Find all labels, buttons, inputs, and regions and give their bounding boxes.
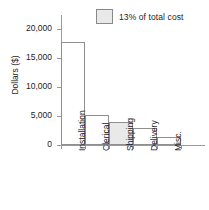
plot-area: 05,00010,00015,00020,000 InstallationCle… <box>61 29 205 145</box>
y-axis-tick-label: 20,000 <box>26 23 52 33</box>
legend-swatch-icon <box>96 9 113 24</box>
y-axis-tick-label: 0 <box>47 139 52 149</box>
chart-legend: 13% of total cost <box>96 9 184 24</box>
x-axis-label: Clerical <box>101 123 111 151</box>
y-axis-tick: 20,000 <box>57 29 62 30</box>
x-axis-label: Misc. <box>173 131 183 151</box>
y-axis-tick-label: 10,000 <box>26 81 52 91</box>
x-axis-tick <box>61 145 62 149</box>
y-axis-tick-label: 15,000 <box>26 52 52 62</box>
y-axis-title: Dollars ($) <box>10 39 20 111</box>
bar-chart: 13% of total cost Dollars ($) 05,00010,0… <box>0 0 209 210</box>
x-axis-label: Shipping <box>125 118 135 151</box>
y-axis-tick-label: 5,000 <box>31 110 52 120</box>
x-axis-label: Delivery <box>149 120 159 151</box>
legend-label: 13% of total cost <box>119 12 184 22</box>
x-axis-label: Installation <box>77 110 87 151</box>
